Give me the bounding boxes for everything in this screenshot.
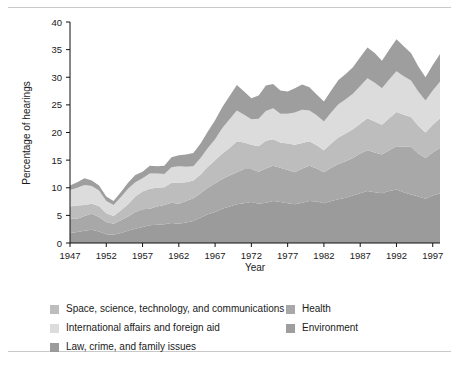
legend-swatch	[50, 324, 59, 333]
x-axis-title: Year	[245, 262, 266, 273]
area-series-group	[70, 39, 440, 243]
x-tick-label: 1977	[277, 250, 298, 261]
legend-label: Law, crime, and family issues	[66, 342, 196, 352]
y-tick-label: 10	[51, 182, 62, 193]
legend-item[interactable]: Space, science, technology, and communic…	[50, 300, 284, 318]
legend-column-left: Space, science, technology, and communic…	[50, 300, 284, 357]
x-tick-label: 1997	[422, 250, 443, 261]
legend-item[interactable]: Law, crime, and family issues	[50, 338, 284, 356]
x-tick-label: 1967	[205, 250, 226, 261]
y-tick-label: 40	[51, 17, 62, 28]
legend-swatch	[50, 343, 59, 352]
plot-area: 0510152025303540194719521957196219671972…	[0, 0, 459, 300]
y-axis-title: Percentage of hearings	[21, 81, 32, 184]
x-tick-label: 1962	[168, 250, 189, 261]
legend-label: International affairs and foreign aid	[66, 323, 220, 333]
y-tick-label: 5	[57, 210, 62, 221]
legend-swatch	[286, 305, 295, 314]
y-tick-label: 35	[51, 44, 62, 55]
y-tick-label: 25	[51, 99, 62, 110]
stacked-area-chart: 0510152025303540194719521957196219671972…	[0, 0, 459, 300]
x-tick-label: 1972	[241, 250, 262, 261]
legend-item[interactable]: Environment	[286, 319, 358, 337]
legend-swatch	[50, 305, 59, 314]
y-tick-label: 15	[51, 155, 62, 166]
y-tick-label: 20	[51, 127, 62, 138]
legend-label: Environment	[302, 323, 358, 333]
x-tick-label: 1982	[313, 250, 334, 261]
figure-container: 0510152025303540194719521957196219671972…	[0, 0, 459, 365]
x-tick-label: 1952	[96, 250, 117, 261]
x-tick-label: 1947	[59, 250, 80, 261]
x-tick-label: 1987	[350, 250, 371, 261]
legend-swatch	[286, 324, 295, 333]
legend-label: Space, science, technology, and communic…	[66, 304, 284, 314]
x-tick-label: 1957	[132, 250, 153, 261]
y-tick-label: 0	[57, 238, 62, 249]
legend-item[interactable]: Health	[286, 300, 358, 318]
legend-label: Health	[302, 304, 331, 314]
legend-item[interactable]: International affairs and foreign aid	[50, 319, 284, 337]
legend-column-right: HealthEnvironment	[286, 300, 358, 338]
x-tick-label: 1992	[386, 250, 407, 261]
y-tick-label: 30	[51, 72, 62, 83]
